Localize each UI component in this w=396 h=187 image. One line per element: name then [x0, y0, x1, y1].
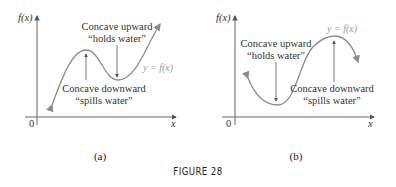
- annotation-holds-water: “holds water”: [247, 50, 305, 61]
- annotation-concave-up: Concave upward: [82, 21, 154, 32]
- panel-a: f(x) x 0 y = f(x) Concave upward “holds …: [18, 12, 176, 163]
- annotation-concave-up: Concave upward: [241, 38, 313, 49]
- x-axis-label: x: [170, 118, 176, 129]
- figure-caption: FIGURE 28: [36, 165, 361, 177]
- curve-label: y = f(x): [142, 62, 174, 74]
- panel-label-a: (a): [94, 150, 107, 163]
- curve-label: y = f(x): [326, 23, 358, 35]
- origin-label: 0: [29, 118, 34, 129]
- origin-label: 0: [226, 118, 231, 129]
- annotation-spills-water: “spills water”: [303, 95, 361, 106]
- annotation-holds-water: “holds water”: [88, 33, 146, 44]
- annotation-concave-down: Concave downward: [62, 83, 146, 94]
- x-axis-label: x: [367, 118, 373, 129]
- panel-b: f(x) x 0 y = f(x) Concave upward “holds …: [216, 12, 375, 163]
- y-axis-label: f(x): [18, 12, 33, 24]
- annotation-concave-down: Concave downward: [290, 83, 374, 94]
- concavity-diagram: f(x) x 0 y = f(x) Concave upward “holds …: [0, 0, 396, 187]
- panel-label-b: (b): [290, 150, 303, 163]
- annotation-spills-water: “spills water”: [75, 95, 133, 106]
- y-axis-label: f(x): [216, 12, 231, 24]
